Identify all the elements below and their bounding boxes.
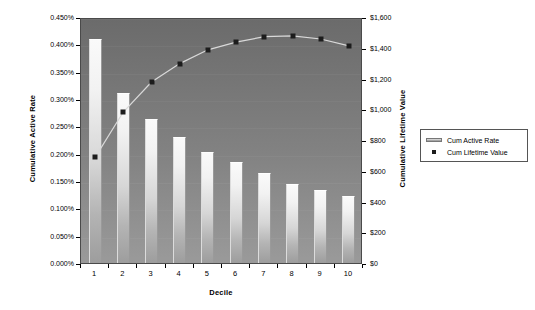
y-axis-left-tick-label: 0.350% xyxy=(28,69,74,76)
marker-decile-5 xyxy=(205,47,210,52)
marker-decile-10 xyxy=(346,43,351,48)
y-axis-right-tick-mark xyxy=(362,80,366,81)
x-axis-tick-label-3: 3 xyxy=(141,269,161,278)
x-axis-tick-label-6: 6 xyxy=(225,269,245,278)
bar-swatch-icon xyxy=(426,138,442,142)
y-axis-right-tick-mark xyxy=(362,141,366,142)
x-axis-tick-mark xyxy=(362,264,363,268)
y-axis-right-tick-label: $0 xyxy=(370,260,416,267)
y-axis-left-tick-mark xyxy=(76,73,80,74)
x-axis-tick-mark xyxy=(165,264,166,268)
y-axis-left-tick-mark xyxy=(76,237,80,238)
x-axis-tick-label-4: 4 xyxy=(169,269,189,278)
y-axis-left-tick-mark xyxy=(76,18,80,19)
y-axis-right-tick-label: $1,000 xyxy=(370,106,416,113)
marker-decile-2 xyxy=(121,110,126,115)
y-axis-left-tick-label: 0.400% xyxy=(28,41,74,48)
x-axis-tick-label-5: 5 xyxy=(197,269,217,278)
y-axis-left-tick-label: 0.150% xyxy=(28,178,74,185)
x-axis-tick-mark xyxy=(221,264,222,268)
y-axis-left-tick-mark xyxy=(76,100,80,101)
y-axis-right-tick-label: $1,600 xyxy=(370,14,416,21)
chart-legend: Cum Active Rate Cum Lifetime Value xyxy=(420,129,528,162)
y-axis-right-tick-mark xyxy=(362,233,366,234)
x-axis-tick-label-1: 1 xyxy=(84,269,104,278)
y-axis-right-tick-label: $200 xyxy=(370,229,416,236)
y-axis-left-tick-label: 0.100% xyxy=(28,205,74,212)
x-axis-tick-label-10: 10 xyxy=(338,269,358,278)
marker-decile-6 xyxy=(234,40,239,45)
y-axis-left-title: Cumulative Active Rate xyxy=(28,59,37,219)
x-axis-tick-label-8: 8 xyxy=(282,269,302,278)
legend-item-cum-active-rate: Cum Active Rate xyxy=(425,134,523,146)
legend-item-cum-lifetime-value: Cum Lifetime Value xyxy=(425,146,523,158)
y-axis-right-tick-label: $1,400 xyxy=(370,45,416,52)
legend-label-cum-lifetime-value: Cum Lifetime Value xyxy=(447,149,508,156)
x-axis-tick-mark xyxy=(249,264,250,268)
y-axis-left-tick-label: 0.200% xyxy=(28,151,74,158)
marker-decile-1 xyxy=(93,155,98,160)
x-axis-tick-mark xyxy=(136,264,137,268)
square-marker-icon xyxy=(426,150,442,154)
y-axis-left-tick-label: 0.000% xyxy=(28,260,74,267)
y-axis-right-tick-mark xyxy=(362,49,366,50)
marker-decile-7 xyxy=(262,34,267,39)
x-axis-tick-mark xyxy=(193,264,194,268)
y-axis-right-tick-label: $800 xyxy=(370,137,416,144)
lifetime-value-line xyxy=(81,19,362,264)
marker-decile-8 xyxy=(290,33,295,38)
x-axis-title: Decile xyxy=(80,288,362,297)
marker-decile-3 xyxy=(149,80,154,85)
y-axis-right-tick-label: $1,200 xyxy=(370,76,416,83)
x-axis-tick-label-9: 9 xyxy=(310,269,330,278)
y-axis-right-tick-label: $600 xyxy=(370,168,416,175)
legend-label-cum-active-rate: Cum Active Rate xyxy=(447,137,499,144)
x-axis-tick-mark xyxy=(108,264,109,268)
y-axis-left-tick-label: 0.050% xyxy=(28,233,74,240)
y-axis-right-tick-label: $400 xyxy=(370,199,416,206)
y-axis-right-tick-mark xyxy=(362,110,366,111)
y-axis-right-tick-mark xyxy=(362,18,366,19)
x-axis-tick-label-2: 2 xyxy=(112,269,132,278)
y-axis-left-tick-label: 0.250% xyxy=(28,123,74,130)
y-axis-left-tick-mark xyxy=(76,127,80,128)
y-axis-right-tick-mark xyxy=(362,172,366,173)
x-axis-tick-label-7: 7 xyxy=(253,269,273,278)
x-axis-tick-mark xyxy=(277,264,278,268)
y-axis-right-tick-mark xyxy=(362,203,366,204)
plot-area xyxy=(80,18,362,264)
y-axis-left-tick-mark xyxy=(76,45,80,46)
x-axis-tick-mark xyxy=(334,264,335,268)
y-axis-left-tick-label: 0.300% xyxy=(28,96,74,103)
marker-decile-4 xyxy=(177,61,182,66)
x-axis-tick-mark xyxy=(80,264,81,268)
marker-decile-9 xyxy=(318,37,323,42)
chart-container: Cumulative Active Rate Cumulative Lifeti… xyxy=(0,0,535,310)
y-axis-left-tick-mark xyxy=(76,209,80,210)
y-axis-left-tick-mark xyxy=(76,155,80,156)
y-axis-left-tick-label: 0.450% xyxy=(28,14,74,21)
x-axis-tick-mark xyxy=(306,264,307,268)
y-axis-left-tick-mark xyxy=(76,182,80,183)
